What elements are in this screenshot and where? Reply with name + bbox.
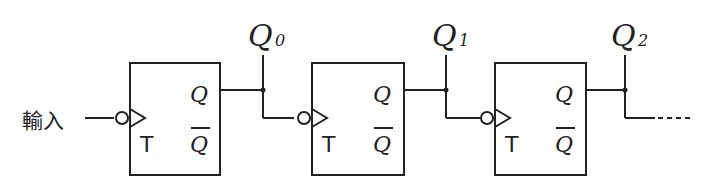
counter-diagram: 輸入 T Q Q Q 0 T Q Q Q 1 T Q: [0, 0, 710, 194]
ff1-junction-dot: [444, 88, 449, 93]
flip-flop-2: T Q Q Q 2: [481, 18, 693, 175]
ff2-qbar-label: Q: [555, 132, 573, 157]
q2-output-label: Q: [611, 18, 636, 53]
ff2-junction-dot: [623, 88, 628, 93]
ff1-clock-bubble: [298, 112, 310, 124]
ff0-t-label: T: [139, 132, 154, 157]
flip-flop-0: T Q Q Q 0: [116, 18, 294, 175]
ff1-qbar-label: Q: [373, 132, 391, 157]
ff1-t-label: T: [321, 132, 336, 157]
q1-output-label: Q: [432, 18, 457, 53]
ff0-qbar-label: Q: [190, 132, 208, 157]
ff0-clock-bubble: [116, 112, 128, 124]
ff0-junction-dot: [261, 88, 266, 93]
q0-output-subscript: 0: [275, 31, 285, 50]
ff0-q-label: Q: [190, 82, 208, 107]
ff2-q-label: Q: [555, 82, 573, 107]
q2-output-subscript: 2: [637, 31, 648, 50]
ff2-t-label: T: [504, 132, 519, 157]
input-label: 輸入: [22, 109, 64, 133]
q1-output-subscript: 1: [459, 31, 469, 50]
flip-flop-1: T Q Q Q 1: [298, 18, 481, 175]
q0-output-label: Q: [248, 18, 273, 53]
ff2-clock-bubble: [481, 112, 493, 124]
ff1-q-label: Q: [373, 82, 391, 107]
